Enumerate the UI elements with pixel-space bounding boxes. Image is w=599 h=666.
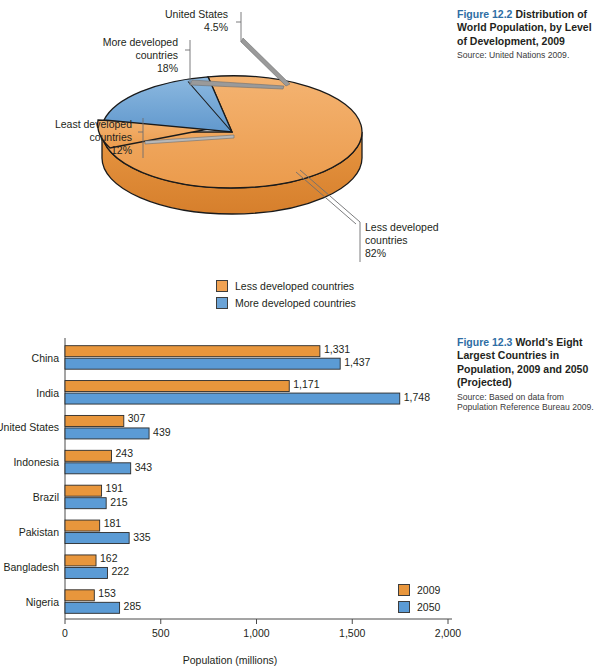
figure-number: Figure 12.2 <box>457 8 512 20</box>
bar-chart-graphic: China1,3311,437India1,1711,748United Sta… <box>0 332 455 666</box>
caption-title-12-3: Figure 12.3 World’s Eight Largest Countr… <box>457 336 599 390</box>
legend-label: 2050 <box>417 601 440 613</box>
caption-figure-12-2: Figure 12.2 Distribution of World Popula… <box>457 8 599 61</box>
x-axis-tick-label: 500 <box>139 627 183 639</box>
bar-2050 <box>65 567 108 578</box>
callout-line: More developed <box>60 36 178 49</box>
bar-2009 <box>65 485 102 496</box>
legend-swatch-2050 <box>398 601 410 613</box>
bar-2009 <box>65 520 100 531</box>
figure-12-3: China1,3311,437India1,1711,748United Sta… <box>0 332 455 666</box>
pie-callout-least-developed: Least developed countries 12% <box>14 118 132 157</box>
legend-swatch-orange <box>216 280 228 292</box>
legend-swatch-blue <box>216 297 228 309</box>
figure-number: Figure 12.3 <box>457 336 512 348</box>
legend-label: More developed countries <box>235 297 356 309</box>
callout-value: 4.5% <box>110 21 228 34</box>
pie-callout-more-developed: More developed countries 18% <box>60 36 178 75</box>
pie-callout-united-states: United States 4.5% <box>110 8 228 34</box>
bar-2050 <box>65 463 131 474</box>
caption-title-12-2: Figure 12.2 Distribution of World Popula… <box>457 8 599 48</box>
caption-figure-12-3: Figure 12.3 World’s Eight Largest Countr… <box>457 336 599 413</box>
bar-2050 <box>65 602 120 613</box>
pie-chart-graphic <box>96 62 368 202</box>
bar-2009 <box>65 381 289 392</box>
bar-2050 <box>65 498 106 509</box>
bar-2050 <box>65 358 340 369</box>
bar-2050 <box>65 428 149 439</box>
bar-legend: 2009 2050 <box>398 581 440 615</box>
bar-2050 <box>65 393 400 404</box>
legend-item-less-developed: Less developed countries <box>216 277 356 294</box>
figure-12-2: United States 4.5% More developed countr… <box>0 0 455 318</box>
bar-2009 <box>65 555 96 566</box>
legend-item-more-developed: More developed countries <box>216 294 356 311</box>
callout-line: Least developed <box>14 118 132 131</box>
callout-value: 18% <box>60 62 178 75</box>
bar-2009 <box>65 450 112 461</box>
legend-item-2050: 2050 <box>398 598 440 615</box>
callout-line: countries <box>14 131 132 144</box>
x-axis-tick-label: 0 <box>43 627 87 639</box>
pie-callout-less-developed: Less developed countries 82% <box>365 221 485 260</box>
x-axis-tick-label: 1,500 <box>330 627 374 639</box>
callout-value: 12% <box>14 144 132 157</box>
bar-chart-svg <box>0 332 455 666</box>
legend-label: Less developed countries <box>235 280 354 292</box>
legend-label: 2009 <box>417 584 440 596</box>
x-axis-tick-label: 1,000 <box>235 627 279 639</box>
figure-page: United States 4.5% More developed countr… <box>0 0 599 666</box>
callout-line: countries <box>60 49 178 62</box>
bar-2009 <box>65 415 124 426</box>
figure-source: Source: United Nations 2009. <box>457 50 599 61</box>
figure-source: Source: Based on data from Population Re… <box>457 392 599 413</box>
x-axis-tick-label: 2,000 <box>426 627 470 639</box>
bar-2050 <box>65 533 129 544</box>
pie-legend: Less developed countries More developed … <box>216 277 356 311</box>
callout-line: countries <box>365 234 485 247</box>
bar-2009 <box>65 590 94 601</box>
legend-item-2009: 2009 <box>398 581 440 598</box>
callout-line: Less developed <box>365 221 485 234</box>
x-axis-title: Population (millions) <box>60 654 400 666</box>
legend-swatch-2009 <box>398 584 410 596</box>
callout-value: 82% <box>365 247 485 260</box>
bar-2009 <box>65 346 320 357</box>
callout-line: United States <box>110 8 228 21</box>
